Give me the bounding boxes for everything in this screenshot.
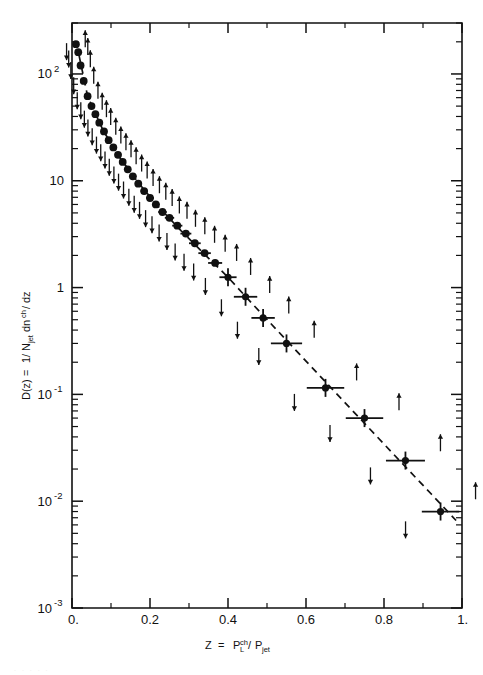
arrow-up-icon-head <box>396 393 401 398</box>
arrow-up-icon-head <box>248 258 253 263</box>
svg-text:10: 10 <box>38 66 52 81</box>
arrow-up-icon-head <box>184 202 189 207</box>
svg-text:=: = <box>218 639 224 651</box>
arrow-down-icon-head <box>137 214 142 219</box>
data-point-marker <box>77 62 85 70</box>
x-tick-label: 0.8 <box>375 612 393 627</box>
arrow-up-icon-head <box>212 226 217 231</box>
data-point-marker <box>361 414 368 421</box>
fit-curve <box>79 55 456 520</box>
arrow-up-icon-head <box>134 147 139 152</box>
arrow-up-icon-head <box>157 176 162 181</box>
arrow-up-icon-head <box>312 321 317 326</box>
arrow-down-icon-head <box>116 186 121 191</box>
data-point-marker <box>134 180 142 188</box>
arrow-up-icon-head <box>354 363 359 368</box>
arrow-down-icon-head <box>292 406 297 411</box>
data-point-marker <box>146 194 154 202</box>
arrow-up-icon-head <box>139 155 144 160</box>
data-point-marker <box>129 172 137 180</box>
arrow-up-icon-head <box>100 93 105 98</box>
arrow-down-icon-head <box>111 179 116 184</box>
y-tick-labels: 10210110-110-210-3 <box>38 63 64 616</box>
arrow-down-icon-head <box>82 123 87 128</box>
arrow-up-icon-head <box>83 30 88 35</box>
data-point-marker <box>95 119 103 127</box>
arrow-down-icon-head <box>102 164 107 169</box>
data-point-marker <box>402 457 409 464</box>
data-point-marker <box>437 508 444 515</box>
svg-text:dz: dz <box>20 291 32 303</box>
systematic-uncertainty-arrows <box>64 30 478 538</box>
x-tick-label: 1. <box>457 612 468 627</box>
data-point-marker <box>80 77 88 85</box>
fragmentation-function-figure: 0.0.20.40.60.81. 10210110-110-210-3 Z=PL… <box>0 0 483 675</box>
data-point-marker <box>100 127 108 135</box>
svg-text:jet: jet <box>261 645 271 654</box>
axes-frame <box>72 23 462 608</box>
arrow-down-icon-head <box>121 194 126 199</box>
arrow-up-icon-head <box>234 244 239 249</box>
arrow-down-icon-head <box>149 229 154 234</box>
svg-text:10: 10 <box>50 173 64 188</box>
data-point-marker <box>224 274 231 281</box>
data-point-marker <box>114 151 122 159</box>
x-tick-label: 0.6 <box>297 612 315 627</box>
svg-text:1: 1 <box>57 280 64 295</box>
arrow-up-icon-head <box>118 126 123 131</box>
plot-frame <box>72 23 462 608</box>
data-points <box>72 40 459 520</box>
svg-text:2: 2 <box>54 63 59 74</box>
arrow-up-icon-head <box>95 82 100 87</box>
data-point-marker <box>84 92 92 100</box>
arrow-down-icon-head <box>327 437 332 442</box>
data-point-marker <box>152 201 160 209</box>
svg-text:jet: jet <box>26 334 35 344</box>
data-point-marker <box>119 158 127 166</box>
svg-text:/: / <box>20 305 32 309</box>
plot-canvas: 0.0.20.40.60.81. 10210110-110-210-3 Z=PL… <box>0 0 483 675</box>
arrow-down-icon-head <box>235 334 240 339</box>
arrow-down-icon-head <box>90 141 95 146</box>
data-point-marker <box>88 102 96 110</box>
arrow-down-icon-head <box>94 149 99 154</box>
arrow-up-icon-head <box>123 133 128 138</box>
arrow-up-icon-head <box>473 482 478 487</box>
x-tick-labels: 0.0.20.40.60.81. <box>68 612 468 627</box>
data-point-marker <box>72 40 80 48</box>
arrow-down-icon-head <box>173 256 178 261</box>
svg-text:10: 10 <box>38 601 52 616</box>
svg-text:/: / <box>20 353 32 357</box>
data-point-marker <box>159 208 167 216</box>
svg-text:D(z): D(z) <box>20 379 32 400</box>
arrow-up-icon-head <box>150 169 155 174</box>
arrow-down-icon-head <box>157 237 162 242</box>
arrow-up-icon-head <box>193 210 198 215</box>
arrow-down-icon-head <box>191 276 196 281</box>
y-tick-label: 1 <box>57 280 64 295</box>
arrow-down-icon-head <box>181 266 186 271</box>
data-point-marker <box>242 293 249 300</box>
data-point-marker <box>182 230 190 238</box>
dashed-fit-line <box>79 55 456 520</box>
arrow-up-icon-head <box>438 434 443 439</box>
svg-text:-3: -3 <box>54 597 62 608</box>
data-point-marker <box>92 110 100 118</box>
data-point-marker <box>191 239 199 247</box>
data-point-marker <box>211 259 219 267</box>
arrow-up-icon-head <box>170 189 175 194</box>
data-point-marker <box>166 214 174 222</box>
svg-text:=: = <box>20 370 32 376</box>
arrow-down-icon-head <box>85 132 90 137</box>
svg-text:-1: -1 <box>54 383 62 394</box>
data-point-marker <box>140 187 148 195</box>
data-point-marker <box>260 314 267 321</box>
arrow-up-icon-head <box>267 276 272 281</box>
caption-fragment: . . . . . <box>14 665 50 672</box>
arrow-up-icon-head <box>128 140 133 145</box>
x-tick-label: 0.4 <box>219 612 237 627</box>
arrow-up-icon-head <box>177 196 182 201</box>
svg-text:N: N <box>20 343 32 351</box>
arrow-down-icon-head <box>219 312 224 317</box>
svg-text:Z: Z <box>205 639 212 651</box>
